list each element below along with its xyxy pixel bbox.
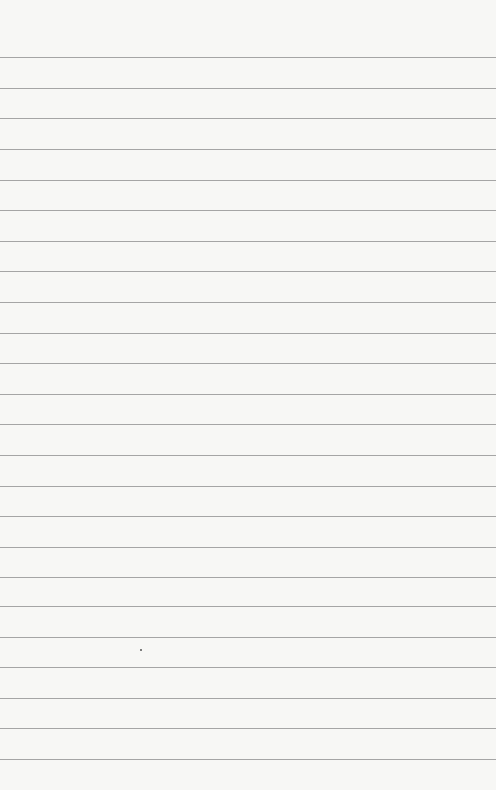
ruled-line bbox=[0, 424, 496, 425]
ruled-line bbox=[0, 759, 496, 760]
ruled-line bbox=[0, 180, 496, 181]
lined-paper-sheet bbox=[0, 0, 496, 790]
ruled-line bbox=[0, 577, 496, 578]
ruled-line bbox=[0, 302, 496, 303]
ruled-line bbox=[0, 667, 496, 668]
ruled-line bbox=[0, 210, 496, 211]
ruled-line bbox=[0, 486, 496, 487]
ruled-line bbox=[0, 333, 496, 334]
ruled-line bbox=[0, 363, 496, 364]
ruled-line bbox=[0, 118, 496, 119]
ruled-line bbox=[0, 698, 496, 699]
ink-speck bbox=[140, 649, 142, 651]
ruled-line bbox=[0, 241, 496, 242]
ruled-line bbox=[0, 606, 496, 607]
ruled-line bbox=[0, 516, 496, 517]
ruled-line bbox=[0, 271, 496, 272]
ruled-line bbox=[0, 149, 496, 150]
ruled-line bbox=[0, 394, 496, 395]
ruled-line bbox=[0, 57, 496, 58]
ruled-line bbox=[0, 547, 496, 548]
ruled-line bbox=[0, 455, 496, 456]
ruled-line bbox=[0, 88, 496, 89]
ruled-line bbox=[0, 728, 496, 729]
ruled-line bbox=[0, 637, 496, 638]
